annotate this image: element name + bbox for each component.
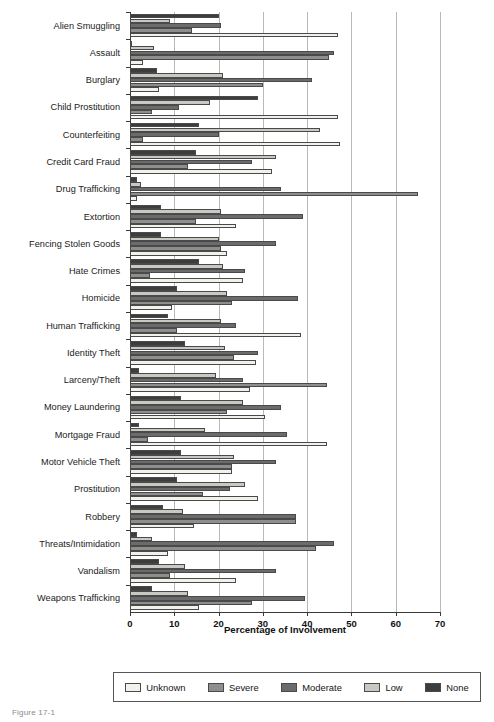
category-label: Money Laundering: [44, 402, 120, 412]
bar-unknown: [130, 305, 172, 310]
category-label: Assault: [90, 48, 120, 58]
gridline: [351, 12, 352, 612]
x-axis-tick: [174, 612, 175, 616]
category-axis-labels: Alien SmugglingAssaultBurglaryChild Pros…: [0, 12, 124, 612]
bar-unknown: [130, 360, 256, 365]
gridline: [396, 12, 397, 612]
legend-label: None: [446, 682, 468, 693]
bar-unknown: [130, 605, 199, 610]
category-label: Prostitution: [74, 484, 120, 494]
category-label: Drug Trafficking: [56, 184, 120, 194]
chart-figure: Alien SmugglingAssaultBurglaryChild Pros…: [0, 0, 494, 722]
bar-unknown: [130, 578, 236, 583]
x-axis-line: [130, 612, 440, 613]
legend-item-low[interactable]: Low: [364, 682, 402, 693]
category-label: Alien Smuggling: [54, 21, 120, 31]
bar-unknown: [130, 115, 338, 120]
bar-unknown: [130, 251, 227, 256]
x-axis-tick: [130, 612, 131, 616]
x-axis-tick: [219, 612, 220, 616]
bar-severe: [130, 55, 329, 60]
bar-unknown: [130, 224, 236, 229]
bar-unknown: [130, 60, 143, 65]
category-label: Extortion: [84, 212, 120, 222]
bar-unknown: [130, 415, 265, 420]
bar-unknown: [130, 278, 243, 283]
figure-caption: Figure 17-1: [12, 708, 55, 717]
x-axis-title: Percentage of Involvement: [130, 624, 440, 635]
bar-severe: [130, 192, 418, 197]
bar-unknown: [130, 142, 340, 147]
bar-unknown: [130, 469, 232, 474]
x-axis-tick: [307, 612, 308, 616]
bar-unknown: [130, 551, 168, 556]
legend-label: Unknown: [146, 682, 185, 693]
bar-unknown: [130, 496, 258, 501]
x-axis-tick: [396, 612, 397, 616]
gridline: [307, 12, 308, 612]
bar-unknown: [130, 333, 301, 338]
bar-unknown: [130, 169, 272, 174]
bar-unknown: [130, 196, 137, 201]
bar-unknown: [130, 87, 159, 92]
category-label: Motor Vehicle Theft: [41, 457, 120, 467]
legend-label: Low: [385, 682, 402, 693]
x-axis-tick: [440, 612, 441, 616]
x-axis-tick: [351, 612, 352, 616]
category-label: Robbery: [85, 512, 120, 522]
bar-unknown: [130, 524, 194, 529]
gridline: [440, 12, 441, 612]
category-label: Threats/Intimidation: [39, 539, 120, 549]
category-label: Counterfeiting: [63, 130, 120, 140]
bar-unknown: [130, 33, 338, 38]
category-label: Human Trafficking: [46, 321, 120, 331]
bar-moderate: [130, 432, 287, 437]
bar-unknown: [130, 442, 327, 447]
category-label: Fencing Stolen Goods: [29, 239, 120, 249]
x-axis-tick: [263, 612, 264, 616]
bar-unknown: [130, 387, 250, 392]
chart-legend: UnknownSevereModerateLowNone: [113, 672, 481, 702]
legend-swatch-icon: [425, 683, 441, 692]
plot-area: Alien SmugglingAssaultBurglaryChild Pros…: [0, 0, 494, 640]
legend-item-severe[interactable]: Severe: [208, 682, 259, 693]
category-label: Credit Card Fraud: [46, 157, 120, 167]
legend-item-moderate[interactable]: Moderate: [281, 682, 342, 693]
legend-item-unknown[interactable]: Unknown: [125, 682, 185, 693]
legend-label: Moderate: [302, 682, 342, 693]
legend-label: Severe: [229, 682, 259, 693]
legend-swatch-icon: [125, 683, 141, 692]
plot-axes: 010203040506070: [130, 12, 440, 612]
category-label: Child Prostitution: [51, 102, 120, 112]
category-label: Larceny/Theft: [64, 375, 120, 385]
category-label: Identity Theft: [67, 348, 120, 358]
legend-swatch-icon: [208, 683, 224, 692]
category-label: Vandalism: [78, 566, 120, 576]
legend-swatch-icon: [281, 683, 297, 692]
category-label: Mortgage Fraud: [55, 430, 120, 440]
legend-swatch-icon: [364, 683, 380, 692]
category-label: Homicide: [82, 293, 120, 303]
bar-moderate: [130, 132, 219, 137]
legend-item-none[interactable]: None: [425, 682, 468, 693]
category-label: Weapons Trafficking: [37, 593, 120, 603]
category-label: Burglary: [86, 75, 120, 85]
category-label: Hate Crimes: [69, 266, 120, 276]
